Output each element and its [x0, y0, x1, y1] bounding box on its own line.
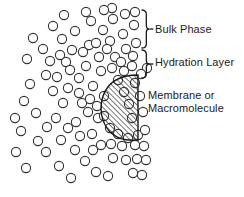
- water-molecule: [48, 86, 57, 95]
- water-molecule: [94, 52, 103, 61]
- water-molecule: [74, 73, 83, 82]
- water-molecule: [88, 81, 97, 90]
- membrane-label-line2: Macromolecule: [148, 102, 224, 115]
- water-molecule: [75, 131, 84, 140]
- water-molecule: [96, 66, 105, 75]
- water-molecule: [71, 117, 80, 126]
- water-molecule: [131, 38, 140, 47]
- water-molecule: [106, 139, 115, 148]
- water-molecule: [80, 156, 89, 165]
- water-molecule: [128, 168, 137, 177]
- water-molecule: [108, 14, 117, 23]
- water-molecule: [139, 141, 148, 150]
- water-molecule: [121, 155, 130, 164]
- water-molecule: [83, 107, 92, 116]
- water-molecule: [85, 94, 94, 103]
- water-molecule: [91, 167, 100, 176]
- water-molecule: [11, 147, 20, 156]
- water-molecule: [48, 21, 57, 30]
- water-molecule: [103, 171, 112, 180]
- water-molecule: [10, 113, 19, 122]
- water-molecule: [81, 7, 90, 16]
- water-molecule: [59, 10, 68, 19]
- bulk-phase-label: Bulk Phase: [155, 23, 212, 36]
- water-molecule: [38, 44, 47, 53]
- water-molecule: [74, 88, 83, 97]
- water-molecule: [121, 44, 130, 53]
- water-molecule: [70, 145, 79, 154]
- water-molecule: [28, 33, 37, 42]
- water-molecule: [57, 34, 66, 43]
- water-molecule: [52, 72, 61, 81]
- water-molecule: [102, 44, 111, 53]
- water-molecule: [56, 135, 65, 144]
- water-molecule: [66, 173, 75, 182]
- water-molecule: [42, 122, 51, 131]
- water-molecule: [132, 154, 141, 163]
- water-molecule: [31, 108, 40, 117]
- water-molecule: [99, 5, 108, 14]
- water-molecule: [116, 57, 125, 66]
- water-molecule: [19, 96, 28, 105]
- membrane-label: Membrane or Macromolecule: [148, 89, 224, 115]
- water-molecule: [67, 45, 76, 54]
- water-molecule: [58, 98, 67, 107]
- water-molecule: [130, 140, 139, 149]
- water-molecule: [120, 9, 129, 18]
- water-molecule: [91, 38, 100, 47]
- water-molecule: [88, 145, 97, 154]
- water-molecule: [63, 83, 72, 92]
- water-molecule: [54, 161, 63, 170]
- water-molecule: [92, 101, 101, 110]
- bulk-phase-brace: [142, 10, 149, 48]
- water-molecule: [118, 29, 127, 38]
- membrane-label-line1: Membrane or: [148, 89, 215, 101]
- water-molecule: [51, 113, 60, 122]
- water-molecule: [45, 56, 54, 65]
- water-molecule: [141, 155, 150, 164]
- water-molecule: [55, 50, 64, 59]
- water-molecule: [137, 170, 146, 179]
- water-molecule: [117, 141, 126, 150]
- water-molecule: [108, 153, 117, 162]
- water-molecule: [129, 20, 138, 29]
- water-molecule: [78, 47, 87, 56]
- water-molecule: [81, 61, 90, 70]
- water-molecule: [41, 70, 50, 79]
- water-molecule: [70, 26, 79, 35]
- water-molecule: [86, 16, 95, 25]
- water-molecule: [41, 147, 50, 156]
- water-molecule: [33, 136, 42, 145]
- hydration-layer-diagram: Bulk Phase Hydration Layer Membrane or M…: [0, 0, 244, 197]
- water-molecule: [63, 123, 72, 132]
- hydration-layer-label: Hydration Layer: [155, 56, 234, 69]
- water-molecule: [130, 7, 139, 16]
- water-molecule: [22, 54, 31, 63]
- water-molecule: [16, 126, 25, 135]
- water-molecule: [25, 79, 34, 88]
- water-molecule: [21, 163, 30, 172]
- water-molecule: [140, 125, 149, 134]
- water-molecule: [107, 63, 116, 72]
- water-molecule: [127, 61, 136, 70]
- water-molecule: [138, 107, 147, 116]
- water-molecule: [87, 129, 96, 138]
- water-molecule: [128, 51, 137, 60]
- water-molecule: [65, 65, 74, 74]
- water-molecule: [98, 25, 107, 34]
